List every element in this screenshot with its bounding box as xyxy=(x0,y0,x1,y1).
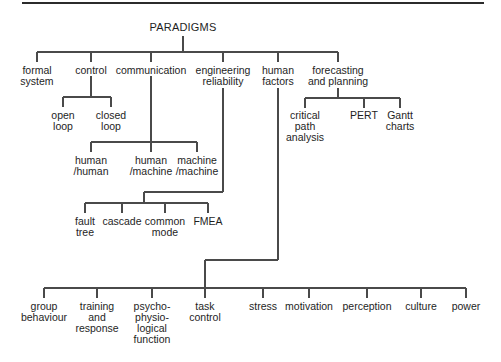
node-task-control: task control xyxy=(189,301,221,323)
node-training-and-response: training and response xyxy=(75,301,118,334)
node-fault-tree: fault tree xyxy=(75,216,95,238)
node-power: power xyxy=(452,301,481,312)
node-closed-loop: closed loop xyxy=(96,110,126,132)
node-stress: stress xyxy=(249,301,277,312)
node-open-loop: open loop xyxy=(51,110,74,132)
node-forecasting-planning: forecasting and planning xyxy=(308,65,368,87)
node-engineering-reliability: engineering reliability xyxy=(196,65,251,87)
node-group-behaviour: group behaviour xyxy=(21,301,67,323)
node-gantt-charts: Gantt charts xyxy=(386,110,415,132)
root-node-paradigms: PARADIGMS xyxy=(150,22,217,33)
node-pert: PERT xyxy=(350,110,378,121)
node-communication: communication xyxy=(116,65,187,76)
node-perception: perception xyxy=(342,301,391,312)
node-motivation: motivation xyxy=(285,301,333,312)
node-human-machine: human /machine xyxy=(130,155,173,177)
node-common-mode: common mode xyxy=(145,216,185,238)
node-fmea: FMEA xyxy=(193,216,222,227)
node-control: control xyxy=(75,65,107,76)
node-formal-system: formal system xyxy=(20,65,53,87)
node-human-human: human /human xyxy=(73,155,108,177)
node-cascade: cascade xyxy=(102,216,141,227)
node-culture: culture xyxy=(405,301,437,312)
node-critical-path-analysis: critical path analysis xyxy=(286,110,324,143)
node-human-factors: human factors xyxy=(262,65,294,87)
node-psycho-physiological-function: psycho- physio- logical function xyxy=(134,301,171,345)
node-machine-machine: machine /machine xyxy=(176,155,219,177)
